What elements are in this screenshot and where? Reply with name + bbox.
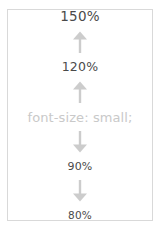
arrow-up-icon xyxy=(70,80,90,104)
scale-value-80: 80% xyxy=(68,210,92,221)
arrow-down-icon xyxy=(70,130,90,154)
font-size-scale-diagram: 150% 120% font-size: small; xyxy=(7,9,153,221)
arrow-down-icon xyxy=(70,179,90,203)
scale-stack: 150% 120% font-size: small; xyxy=(8,10,152,220)
scale-value-120: 120% xyxy=(62,61,99,74)
arrow-up-icon xyxy=(70,30,90,54)
scale-value-150: 150% xyxy=(60,10,99,24)
scale-value-90: 90% xyxy=(67,161,92,172)
font-size-declaration: font-size: small; xyxy=(28,111,133,124)
